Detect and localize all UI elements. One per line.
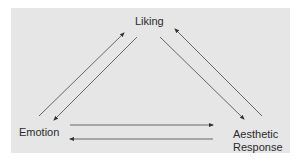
arrow-liking-to-emotion bbox=[54, 37, 137, 120]
arrow-aesthetic-to-liking bbox=[175, 29, 262, 116]
arrow-emotion-to-liking bbox=[39, 33, 124, 116]
arrow-liking-to-aesthetic bbox=[160, 37, 244, 119]
node-aesthetic-line1: Aesthetic bbox=[233, 128, 278, 141]
node-aesthetic-line2: Response bbox=[233, 141, 283, 154]
node-liking: Liking bbox=[135, 15, 164, 28]
node-emotion: Emotion bbox=[19, 126, 59, 139]
